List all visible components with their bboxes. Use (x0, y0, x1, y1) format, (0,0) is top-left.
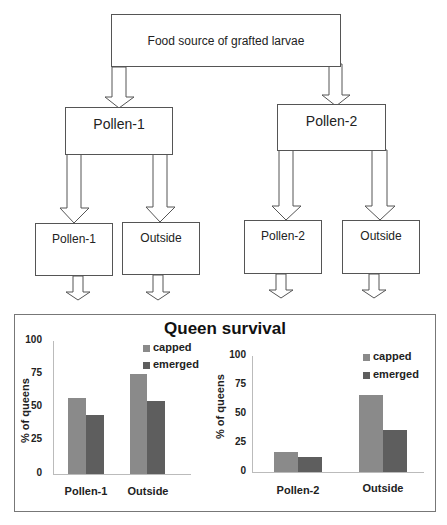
chart-right-tick-25: 25 (222, 436, 246, 447)
level3-label-outside-2: Outside (343, 229, 419, 243)
level3-box-outside-1: Outside (122, 222, 200, 275)
chart-left-cat-pollen1: Pollen-1 (51, 485, 121, 497)
queen-survival-panel: Queen survival % of queens 100 75 50 25 … (14, 314, 436, 512)
chart-left-tick-25: 25 (18, 433, 42, 444)
chart-left-x-axis (53, 474, 191, 475)
legend-swatch-capped (363, 354, 370, 361)
chart-right-tick-75: 75 (222, 378, 246, 389)
bar-right-outside-capped (359, 395, 383, 472)
legend-swatch-capped (143, 345, 150, 352)
chart-right-legend-emerged: emerged (363, 368, 419, 380)
arrow-down-3 (269, 274, 293, 298)
chart-left-tick-75: 75 (18, 367, 42, 378)
bar-left-outside-capped (130, 374, 147, 474)
legend-swatch-emerged (143, 362, 150, 369)
chart-right-x-axis (252, 472, 424, 473)
level3-box-pollen1: Pollen-1 (35, 223, 113, 276)
level3-box-pollen2: Pollen-2 (244, 220, 322, 274)
bar-left-pollen1-emerged (86, 415, 104, 474)
arrow-pollen2-to-pollen2 (272, 150, 301, 220)
level2-label-pollen2: Pollen-2 (278, 113, 385, 129)
root-label: Food source of grafted larvae (112, 34, 340, 48)
level3-box-outside-2: Outside (342, 220, 420, 274)
chart-title: Queen survival (15, 319, 435, 339)
arrow-down-1 (66, 276, 90, 300)
chart-left-tick-100: 100 (18, 334, 42, 345)
chart-left-cat-outside: Outside (113, 485, 183, 497)
bar-right-outside-emerged (383, 430, 407, 472)
level2-box-pollen1: Pollen-1 (65, 107, 173, 155)
legend-swatch-emerged (363, 372, 370, 379)
chart-right-tick-0: 0 (222, 465, 246, 476)
chart-right-cat-outside: Outside (348, 482, 418, 494)
chart-left-y-axis (53, 341, 54, 474)
level3-label-pollen2: Pollen-2 (245, 229, 321, 243)
arrow-down-4 (362, 274, 386, 298)
chart-right-cat-pollen2: Pollen-2 (263, 484, 333, 496)
chart-right-tick-100: 100 (222, 349, 246, 360)
bar-left-outside-emerged (147, 401, 165, 474)
bar-right-pollen2-capped (274, 452, 298, 472)
chart-right-tick-50: 50 (222, 407, 246, 418)
arrow-pollen2-to-outside (365, 150, 395, 220)
chart-left-legend-emerged: emerged (143, 358, 199, 370)
bar-right-pollen2-emerged (298, 457, 322, 472)
level3-label-pollen1: Pollen-1 (36, 232, 112, 246)
chart-right-y-axis (252, 356, 253, 472)
arrow-down-2 (146, 275, 170, 300)
arrow-pollen1-to-outside (146, 154, 175, 222)
chart-right-legend-capped: capped (363, 350, 412, 362)
chart-left-tick-0: 0 (18, 467, 42, 478)
level3-label-outside-1: Outside (123, 231, 199, 245)
level2-label-pollen1: Pollen-1 (66, 116, 172, 132)
bar-left-pollen1-capped (68, 398, 86, 474)
chart-left-tick-50: 50 (18, 400, 42, 411)
arrow-root-to-pollen2 (322, 64, 350, 106)
arrow-root-to-pollen1 (105, 67, 134, 108)
root-box: Food source of grafted larvae (111, 14, 341, 67)
arrow-pollen1-to-pollen1 (60, 154, 89, 223)
level2-box-pollen2: Pollen-2 (277, 104, 386, 151)
chart-left-legend-capped: capped (143, 341, 192, 353)
